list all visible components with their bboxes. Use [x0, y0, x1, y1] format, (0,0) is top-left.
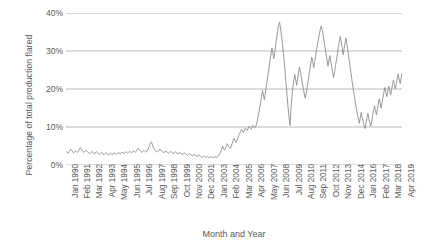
x-axis-tick-label: Nov 2013 [344, 164, 354, 222]
x-axis-tick-label: Apr 1993 [108, 164, 118, 222]
y-axis-tick-label: 30% [36, 47, 63, 56]
x-axis-tick-label: Aug 1997 [158, 164, 168, 222]
x-axis-tick-label: Apr 2006 [257, 164, 267, 222]
x-axis-tick-label: Mar 2005 [245, 164, 255, 222]
x-axis-tick-label: Aug 2010 [307, 164, 317, 222]
y-axis-title: Percentage of total production flared [22, 5, 36, 205]
plot-area [66, 13, 402, 165]
x-axis-tick-label: May 2007 [270, 164, 280, 222]
x-axis-tick-label: Sep 2011 [319, 164, 329, 222]
x-axis-tick-label: Jan 1990 [71, 164, 81, 222]
x-axis-tick-label: Mar 1992 [95, 164, 105, 222]
flaring-percentage-line-chart: Percentage of total production flared 0%… [0, 0, 423, 249]
x-axis-tick-label: Feb 1991 [83, 164, 93, 222]
x-axis-tick-label: Jul 2009 [295, 164, 305, 222]
y-axis-tick-label: 40% [36, 9, 63, 18]
x-axis-tick-label: Jan 2016 [369, 164, 379, 222]
x-axis-tick-label: Feb 2017 [382, 164, 392, 222]
x-axis-tick-label: Sep 1998 [170, 164, 180, 222]
x-axis-tick-label: Apr 2019 [407, 164, 417, 222]
x-axis-tick-label: Jan 2003 [220, 164, 230, 222]
x-axis-tick-label: Feb 2004 [232, 164, 242, 222]
x-axis-tick-label: May 1994 [120, 164, 130, 222]
x-axis-tick-label: Oct 1999 [183, 164, 193, 222]
x-axis-title: Month and Year [66, 228, 402, 240]
x-axis-tick-label: Dec 2001 [207, 164, 217, 222]
x-axis-tick-label: Oct 2012 [332, 164, 342, 222]
x-axis-tick-label: Dec 2014 [357, 164, 367, 222]
x-axis-tick-label: Jun 2008 [282, 164, 292, 222]
x-axis-tick-label: Mar 2018 [394, 164, 404, 222]
data-series-line [66, 22, 402, 158]
x-axis-tick-labels: Jan 1990Feb 1991Mar 1992Apr 1993May 1994… [66, 166, 402, 224]
y-axis-tick-label: 20% [36, 85, 63, 94]
x-axis-tick-label: Jul 1996 [145, 164, 155, 222]
plot-svg [66, 13, 402, 165]
y-axis-tick-label: 10% [36, 123, 63, 132]
y-axis-tick-label: 0% [36, 161, 63, 170]
gridlines [66, 13, 402, 165]
x-axis-tick-label: Nov 2000 [195, 164, 205, 222]
y-axis-tick-labels: 0%10%20%30%40% [36, 13, 63, 165]
x-axis-tick-label: Jun 1995 [133, 164, 143, 222]
